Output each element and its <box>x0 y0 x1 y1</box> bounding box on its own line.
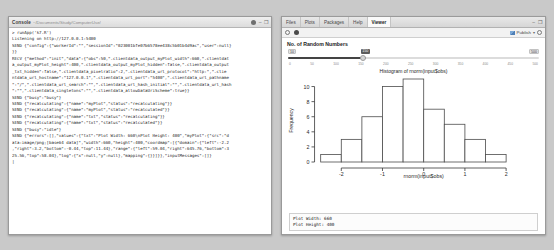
slider-tick: 300 <box>433 62 439 66</box>
minimize-icon[interactable]: – <box>259 20 262 25</box>
histogram-title: Histogram of rnorm(input$obs) <box>286 68 541 74</box>
svg-text:2: 2 <box>307 144 310 150</box>
svg-text:Frequency: Frequency <box>288 108 294 133</box>
slider-handle[interactable] <box>360 55 367 62</box>
svg-text:2: 2 <box>505 172 508 178</box>
slider-ticks: 0 50 100 150 200 250 300 350 400 450 500 <box>288 62 539 66</box>
slider-tick: 500 <box>532 62 538 66</box>
slider-tick: 450 <box>508 62 514 66</box>
svg-text:1: 1 <box>463 172 466 178</box>
slider-endpoints: 10 150 500 <box>288 49 539 54</box>
slider-track-wrap[interactable] <box>288 55 539 61</box>
gear-icon[interactable] <box>537 30 542 35</box>
console-window-controls: – ❐ <box>251 20 268 25</box>
slider-tick: 250 <box>408 62 414 66</box>
slider-tick: 100 <box>333 62 339 66</box>
viewer-window: Files Plots Packages Help Viewer – ❐ Pub… <box>281 16 546 235</box>
maximize-icon[interactable]: ❐ <box>538 20 542 25</box>
tab-files[interactable]: Files <box>282 17 301 27</box>
slider-tick: 400 <box>483 62 489 66</box>
chevron-down-icon[interactable]: ▾ <box>533 31 535 35</box>
viewer-tabbar: Files Plots Packages Help Viewer – ❐ <box>282 17 545 28</box>
svg-text:8: 8 <box>307 99 310 105</box>
tab-help[interactable]: Help <box>349 17 367 27</box>
tab-packages[interactable]: Packages <box>320 17 349 27</box>
slider-tick: 350 <box>458 62 464 66</box>
console-cursor[interactable]: | <box>12 159 268 165</box>
slider-tick: 50 <box>310 62 314 66</box>
desktop-background: Console ~/Documents/Study/ComputerUse/ –… <box>0 0 554 250</box>
slider-max-label: 500 <box>529 49 539 54</box>
slider-min-label: 10 <box>288 49 296 54</box>
slider-value-label: 150 <box>361 49 370 54</box>
svg-text:0: 0 <box>307 159 310 165</box>
toolbar-right-group: Publish ▾ <box>510 30 542 35</box>
publish-icon <box>510 31 515 35</box>
svg-text:6: 6 <box>307 114 310 120</box>
console-output[interactable]: > runApp('k7.R') Listening on http://127… <box>9 28 271 234</box>
slider-track-fill <box>288 57 366 59</box>
slider-tick: 0 <box>289 62 291 66</box>
console-titlebar[interactable]: Console ~/Documents/Study/ComputerUse/ –… <box>9 17 271 28</box>
shiny-app-content: No. of Random Numbers 10 150 500 0 50 10… <box>282 38 545 234</box>
console-line: SEND {"config":{"workerId":"","sessionId… <box>12 43 268 49</box>
slider-label: No. of Random Numbers <box>287 41 541 47</box>
svg-text:10: 10 <box>304 84 310 90</box>
console-path: ~/Documents/Study/ComputerUse/ <box>33 20 101 25</box>
text-output-box: Plot Width: 660 Plot Height: 400 <box>289 213 538 231</box>
viewer-window-controls: – ❐ <box>532 17 545 27</box>
slider-tick: 200 <box>383 62 389 66</box>
minimize-icon[interactable]: – <box>532 20 535 25</box>
publish-button[interactable]: Publish ▾ <box>510 30 534 35</box>
svg-text:-1: -1 <box>380 172 385 178</box>
maximize-icon[interactable]: ❐ <box>264 20 268 25</box>
record-dot-icon[interactable] <box>251 20 256 25</box>
publish-label: Publish <box>517 30 531 35</box>
viewer-toolbar: Publish ▾ <box>282 28 545 38</box>
tab-plots[interactable]: Plots <box>301 17 320 27</box>
refresh-icon[interactable] <box>294 30 299 35</box>
console-window: Console ~/Documents/Study/ComputerUse/ –… <box>8 16 272 235</box>
svg-text:4: 4 <box>307 129 310 135</box>
random-numbers-slider[interactable]: 10 150 500 0 50 100 150 200 250 300 <box>286 49 541 66</box>
plot-height-text: Plot Height: 400 <box>293 222 534 228</box>
slider-tick: 150 <box>358 62 364 66</box>
console-title: Console <box>12 20 31 25</box>
back-arrow-icon[interactable] <box>285 30 290 35</box>
tab-viewer[interactable]: Viewer <box>368 17 392 27</box>
histogram-svg: 0246810Frequency-2-1012rnorm(input$obs) <box>286 75 541 179</box>
svg-text:rnorm(input$obs): rnorm(input$obs) <box>404 174 445 179</box>
histogram-plot: 0246810Frequency-2-1012rnorm(input$obs) <box>286 75 541 211</box>
svg-text:-2: -2 <box>339 172 344 178</box>
